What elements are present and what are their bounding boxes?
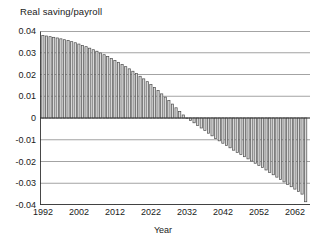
bar: [218, 118, 220, 141]
bar: [251, 118, 253, 161]
bar: [78, 44, 80, 118]
bar: [157, 91, 159, 118]
bar: [74, 43, 76, 118]
bar: [200, 118, 202, 128]
bar: [71, 42, 73, 118]
bar: [128, 69, 130, 118]
bar: [125, 67, 127, 118]
chart-title: Real saving/payroll: [20, 6, 102, 17]
bar: [164, 97, 166, 118]
bar: [60, 39, 62, 118]
bar: [171, 104, 173, 118]
bar: [153, 88, 155, 118]
x-tick-label: 2002: [69, 207, 89, 217]
bar: [204, 118, 206, 131]
bar: [211, 118, 213, 136]
x-tick-label: 2042: [213, 207, 233, 217]
bar: [247, 118, 249, 159]
bar: [294, 118, 296, 189]
y-axis-tick-labels: 0.040.030.020.010-0.01-0.02-0.03-0.04: [0, 31, 36, 205]
bar: [117, 62, 119, 118]
bar: [110, 58, 112, 118]
axis-lines: [40, 31, 310, 205]
bar: [272, 118, 274, 175]
bar: [99, 53, 101, 118]
bar: [240, 118, 242, 155]
bar: [67, 41, 69, 118]
bar: [305, 118, 307, 202]
bar: [143, 79, 145, 118]
bar: [81, 45, 83, 118]
bar: [150, 85, 152, 119]
y-tick-label: 0: [31, 113, 36, 123]
bar: [121, 65, 123, 119]
bar: [179, 111, 181, 118]
bar: [193, 118, 195, 123]
bar: [269, 118, 271, 172]
bar: [207, 118, 209, 133]
x-tick-label: 2052: [249, 207, 269, 217]
chart-figure: Real saving/payroll 0.040.030.020.010-0.…: [0, 0, 326, 246]
x-tick-label: 2062: [285, 207, 305, 217]
bar: [89, 48, 91, 118]
bar: [225, 118, 227, 146]
bar: [276, 118, 278, 177]
bar: [132, 71, 134, 118]
bar: [243, 118, 245, 157]
bar: [215, 118, 217, 138]
x-axis-tick-labels: 19922002201220222032204220522062: [0, 207, 326, 221]
bar: [45, 36, 47, 118]
bar: [135, 74, 137, 118]
x-tick-label: 2012: [105, 207, 125, 217]
y-tick-label: -0.02: [15, 157, 36, 167]
bar: [261, 118, 263, 168]
bar: [254, 118, 256, 163]
bar: [222, 118, 224, 143]
bar-series: [42, 35, 307, 201]
bar: [182, 115, 184, 118]
y-tick-label: 0.03: [18, 48, 36, 58]
bar: [107, 56, 109, 118]
bar: [236, 118, 238, 152]
bar: [42, 35, 44, 118]
y-tick-label: -0.01: [15, 135, 36, 145]
bar: [290, 118, 292, 187]
bar: [168, 101, 170, 118]
bar: [53, 37, 55, 118]
bar: [265, 118, 267, 170]
y-tick-label: -0.03: [15, 178, 36, 188]
bar: [175, 108, 177, 118]
plot-area: [40, 31, 310, 205]
bar: [197, 118, 199, 125]
x-axis-title: Year: [0, 225, 326, 235]
y-tick-label: 0.04: [18, 26, 36, 36]
bar: [258, 118, 260, 165]
bar: [114, 60, 116, 118]
bar: [287, 118, 289, 184]
bar: [301, 118, 303, 194]
bar: [103, 55, 105, 118]
bar: [63, 40, 65, 118]
bar: [146, 82, 148, 118]
bar: [279, 118, 281, 180]
bar: [233, 118, 235, 150]
bar: [85, 47, 87, 118]
bar: [49, 37, 51, 118]
y-tick-label: 0.02: [18, 70, 36, 80]
bar: [56, 38, 58, 118]
x-tick-label: 2032: [177, 207, 197, 217]
bar: [161, 94, 163, 118]
y-tick-label: 0.01: [18, 91, 36, 101]
bar: [229, 118, 231, 148]
bar-chart-svg: [40, 31, 310, 205]
bar: [139, 76, 141, 118]
bar: [297, 118, 299, 192]
bar: [283, 118, 285, 182]
x-tick-label: 2022: [141, 207, 161, 217]
x-tick-label: 1992: [33, 207, 53, 217]
bar: [96, 51, 98, 118]
bar: [92, 50, 94, 118]
